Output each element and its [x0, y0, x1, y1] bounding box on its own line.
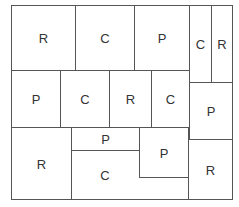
cell-label: C [100, 32, 109, 45]
cell-label: R [126, 93, 135, 106]
cell-label: C [166, 93, 175, 106]
cell-label: P [158, 32, 167, 45]
cell-label: P [160, 146, 169, 159]
cell-label: C [100, 169, 109, 182]
cell-label: R [206, 163, 215, 176]
cell-label: R [37, 157, 46, 170]
cell-label: P [32, 93, 41, 106]
cell-label: P [207, 105, 216, 118]
cell-label: P [101, 133, 110, 146]
cell-label: C [80, 93, 89, 106]
cell-label: R [217, 38, 226, 51]
floorplan-diagram: RCPCRPCRCPRCPPR [0, 0, 239, 207]
cell-label: C [196, 38, 205, 51]
cell-label: R [39, 32, 48, 45]
